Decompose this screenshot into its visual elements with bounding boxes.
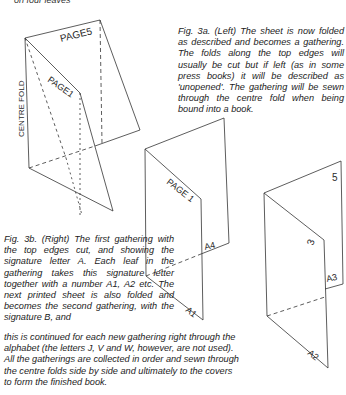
fig3a-diagram [25, 20, 140, 215]
page5-number: 5 [332, 172, 338, 183]
a3-label: A3 [325, 272, 338, 284]
caption-line: this is continued for each new gathering… [4, 332, 294, 343]
centre-fold-label: CENTRE FOLD [17, 80, 26, 137]
page5-label: PAGE5 [59, 25, 94, 44]
caption-line: the centre folds side by side and ultima… [4, 366, 294, 377]
a4-label: A4 [203, 240, 216, 252]
caption-line: to form the finished book. [4, 377, 294, 388]
caption-line: alphabet (the letters J, V and W, howeve… [4, 343, 294, 354]
page1-label: PAGE1 [46, 74, 76, 99]
caption-line: All the gatherings are collected in orde… [4, 354, 294, 365]
fig3b-caption: Fig. 3b. (Right) The first gathering wit… [4, 234, 174, 324]
fig3b-caption-continued: this is continued for each new gathering… [4, 332, 294, 388]
page3-number: 3 [305, 237, 317, 246]
fig3a-caption: Fig. 3a. (Left) The sheet is now folded … [178, 26, 344, 116]
